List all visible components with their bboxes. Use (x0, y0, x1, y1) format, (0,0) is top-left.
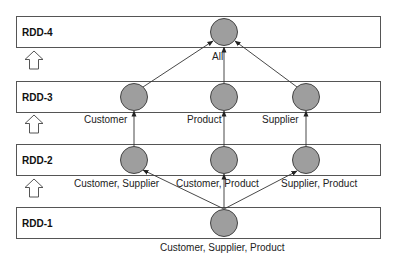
node-label-supplier-product: Supplier, Product (281, 178, 357, 189)
rdd-hierarchy-diagram: RDD-4 RDD-3 RDD-2 RDD-1 (0, 0, 393, 257)
node-product (211, 84, 238, 111)
node-customer (121, 84, 148, 111)
node-customer-supplier-product (211, 210, 238, 237)
layer-box (17, 145, 381, 176)
layer-label: RDD-1 (22, 218, 53, 229)
node-label-product: Product (187, 114, 222, 125)
edge-rdd1-to-supplier-product (224, 171, 297, 209)
node-label-customer-supplier-product: Customer, Supplier, Product (160, 242, 285, 253)
node-customer-supplier (121, 147, 148, 174)
up-arrow-icon (25, 115, 43, 133)
layer-label: RDD-2 (22, 155, 53, 166)
layer-rdd3: RDD-3 (17, 82, 381, 113)
node-label-customer-supplier: Customer, Supplier (74, 178, 160, 189)
up-arrow-icon (25, 179, 43, 197)
node-label-all: All (212, 51, 223, 62)
up-arrow-icon (25, 51, 43, 69)
layer-rdd2: RDD-2 (17, 145, 381, 176)
layer-rdd1: RDD-1 (17, 208, 381, 239)
node-supplier (293, 84, 320, 111)
node-label-customer: Customer (84, 114, 128, 125)
node-customer-product (211, 147, 238, 174)
node-label-customer-product: Customer, Product (176, 178, 259, 189)
node-supplier-product (293, 147, 320, 174)
layer-rdd4: RDD-4 (17, 17, 381, 48)
layer-box (17, 82, 381, 113)
layer-label: RDD-3 (22, 92, 53, 103)
layer-box (17, 17, 381, 48)
node-all (211, 19, 238, 46)
layer-label: RDD-4 (22, 27, 53, 38)
layer-box (17, 208, 381, 239)
node-label-supplier: Supplier (262, 114, 299, 125)
